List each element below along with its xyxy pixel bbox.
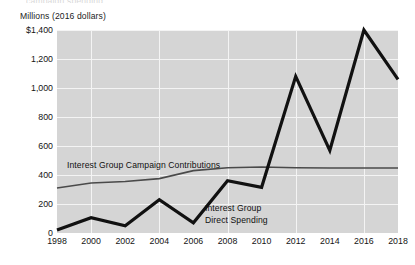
y-axis-tick-label: 400	[1, 170, 53, 180]
y-axis-tick-labels: 02004006008001,0001,200$1,400	[0, 30, 53, 233]
x-axis-tick-label: 2014	[320, 236, 340, 246]
series-line	[57, 167, 398, 188]
series-label-direct-spending-line1: Interest Group	[205, 203, 268, 215]
x-axis-tick-label: 2008	[218, 236, 238, 246]
y-axis-tick-label: 1,000	[1, 83, 53, 93]
y-axis-tick-label: 1,200	[1, 54, 53, 64]
chart-figure: campaign spending Millions (2016 dollars…	[0, 0, 415, 265]
x-axis-tick-label: 2010	[252, 236, 272, 246]
x-axis-tick-label: 2018	[388, 236, 408, 246]
y-axis-tick-label: 600	[1, 141, 53, 151]
y-axis-tick-label: $1,400	[1, 25, 53, 35]
x-axis-tick-label: 2004	[150, 236, 170, 246]
x-axis-tick-label: 2012	[286, 236, 306, 246]
x-axis-tick-label: 2000	[81, 236, 101, 246]
series-label-direct-spending: Interest Group Direct Spending	[205, 203, 268, 226]
x-axis-tick-label: 1998	[47, 236, 67, 246]
cropped-title-remnant: campaign spending	[26, 0, 216, 3]
series-line	[57, 30, 398, 230]
y-axis-tick-label: 800	[1, 112, 53, 122]
x-axis-tick-label: 2016	[354, 236, 374, 246]
x-axis-tick-label: 2006	[184, 236, 204, 246]
y-axis-tick-label: 200	[1, 199, 53, 209]
x-axis-tick-label: 2002	[115, 236, 135, 246]
y-axis-tick-label: 0	[1, 228, 53, 238]
series-label-campaign-contributions: Interest Group Campaign Contributions	[67, 160, 220, 170]
series-label-direct-spending-line2: Direct Spending	[205, 215, 268, 227]
y-axis-units-caption: Millions (2016 dollars)	[20, 11, 106, 21]
x-axis-tick-labels: 1998200020022004200620082010201220142016…	[57, 236, 398, 252]
